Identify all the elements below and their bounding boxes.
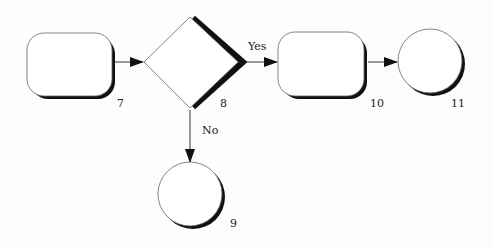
flowchart-canvas: 7 8 Yes 10 11 No 9 (0, 0, 492, 251)
node-11-label: 11 (451, 97, 465, 110)
node-11[interactable]: 11 (398, 29, 465, 110)
node-7-box (27, 33, 112, 96)
node-8-label: 8 (220, 97, 227, 110)
edge-no-label: No (202, 124, 219, 137)
node-9[interactable]: 9 (158, 162, 237, 230)
node-7-label: 7 (117, 97, 124, 110)
node-10[interactable]: 10 (278, 32, 384, 110)
node-11-circle (398, 29, 462, 93)
node-9-circle (158, 162, 222, 226)
node-8[interactable]: 8 (144, 17, 243, 110)
node-7[interactable]: 7 (27, 33, 124, 110)
edge-yes-label: Yes (247, 40, 267, 53)
node-9-label: 9 (230, 217, 237, 230)
node-10-label: 10 (370, 97, 384, 110)
node-8-diamond (144, 17, 238, 108)
node-10-box (278, 32, 364, 96)
